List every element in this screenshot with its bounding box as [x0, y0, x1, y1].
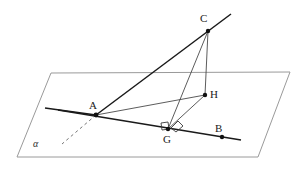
geometry-figure: C H A G B α	[0, 0, 302, 169]
geometry-canvas	[0, 0, 302, 169]
segment-g-to-h	[168, 95, 205, 129]
plane-alpha-outline	[17, 72, 290, 157]
vertex-dot-b	[220, 135, 224, 139]
vertex-dot-h	[203, 93, 207, 97]
point-label-c: C	[200, 13, 207, 24]
vertex-dot-c	[206, 29, 210, 33]
dashed-ray-from-a	[62, 115, 96, 144]
plane-label-alpha: α	[33, 139, 38, 149]
point-label-g: G	[163, 134, 171, 145]
vertex-dot-g	[166, 127, 170, 131]
point-label-b: B	[215, 123, 222, 134]
vertex-dot-a	[94, 113, 99, 118]
line-ab-extended	[58, 110, 241, 140]
point-label-a: A	[89, 100, 97, 111]
segment-a-to-h	[96, 95, 205, 115]
point-label-h: H	[210, 89, 218, 100]
segment-c-to-h	[205, 31, 208, 95]
